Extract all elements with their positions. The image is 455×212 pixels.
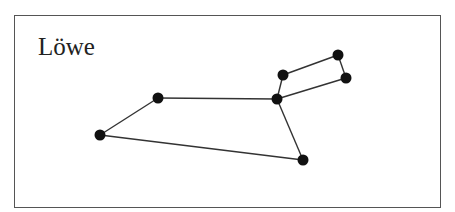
star-dot — [272, 94, 283, 105]
constellation-line — [100, 135, 303, 160]
star-dot — [298, 155, 309, 166]
star-dot — [278, 70, 289, 81]
constellation-stars — [95, 50, 352, 166]
constellation-line — [158, 98, 277, 99]
constellation-line — [283, 55, 338, 75]
constellation-line — [277, 99, 303, 160]
star-dot — [333, 50, 344, 61]
star-dot — [341, 73, 352, 84]
constellation-lines — [100, 55, 346, 160]
star-dot — [153, 93, 164, 104]
constellation-line — [100, 98, 158, 135]
constellation-diagram — [0, 0, 455, 212]
star-dot — [95, 130, 106, 141]
constellation-line — [277, 78, 346, 99]
